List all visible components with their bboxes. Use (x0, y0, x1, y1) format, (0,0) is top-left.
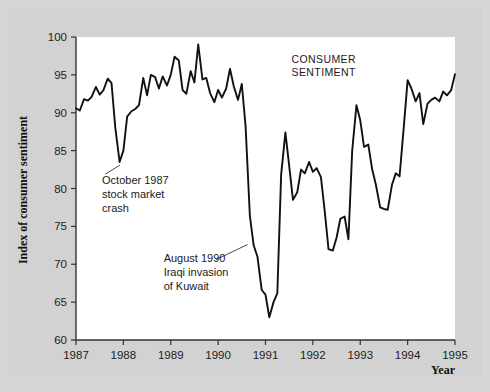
y-tick-label: 95 (54, 69, 67, 81)
october-1987-crash-text-line3: crash (102, 202, 129, 214)
y-axis-title: Index of consumer sentiment (16, 116, 30, 264)
series-label-line1: CONSUMER (292, 53, 356, 65)
y-axis-ticks: 6065707580859095100 (48, 31, 76, 346)
august-1990-iraq-invasion-text-line3: of Kuwait (164, 280, 209, 292)
x-axis-title: Year (431, 363, 456, 377)
x-tick-label: 1994 (395, 349, 421, 361)
august-1990-iraq-invasion-text-line2: Iraqi invasion (164, 266, 229, 278)
october-1987-crash-text-line1: October 1987 (102, 174, 169, 186)
x-tick-label: 1995 (442, 349, 468, 361)
x-tick-label: 1992 (300, 349, 326, 361)
series-inline-label: CONSUMERSENTIMENT (292, 53, 356, 78)
x-tick-label: 1991 (253, 349, 279, 361)
y-tick-label: 70 (54, 258, 67, 270)
y-tick-label: 100 (48, 31, 67, 43)
august-1990-iraq-invasion-text-line1: August 1990 (164, 252, 226, 264)
x-axis-ticks: 198719881989199019911992199319941995 (63, 340, 468, 361)
consumer-sentiment-chart: 6065707580859095100 19871988198919901991… (0, 0, 490, 392)
y-tick-label: 75 (54, 220, 67, 232)
y-tick-label: 90 (54, 107, 67, 119)
y-tick-label: 65 (54, 296, 67, 308)
october-1987-crash-text-line2: stock market (102, 188, 164, 200)
y-tick-label: 80 (54, 183, 67, 195)
x-tick-label: 1993 (347, 349, 373, 361)
y-tick-label: 85 (54, 145, 67, 157)
y-tick-label: 60 (54, 334, 67, 346)
x-tick-label: 1989 (158, 349, 184, 361)
figure-container: 6065707580859095100 19871988198919901991… (0, 0, 490, 392)
x-tick-label: 1988 (111, 349, 137, 361)
x-tick-label: 1987 (63, 349, 89, 361)
series-label-line2: SENTIMENT (292, 66, 356, 78)
x-tick-label: 1990 (205, 349, 231, 361)
